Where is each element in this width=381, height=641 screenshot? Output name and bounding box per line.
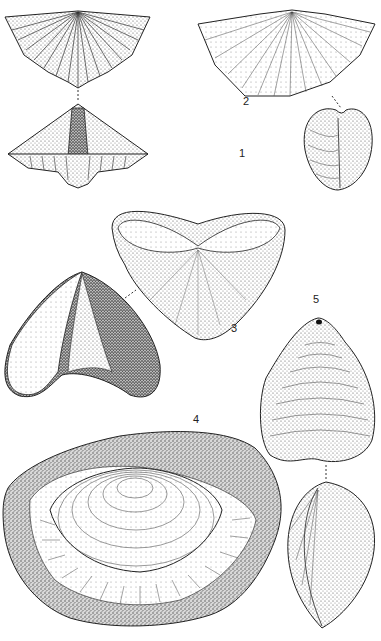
figure-label-1: 1 — [239, 148, 245, 159]
figure-5-dorsal — [260, 318, 374, 480]
figure-2-dorsal — [198, 10, 375, 108]
figure-4-specimen — [3, 432, 281, 626]
figure-label-5: 5 — [313, 294, 319, 305]
figure-3-oblique — [5, 272, 160, 397]
figure-5-lateral — [288, 482, 375, 628]
figure-1-posterior — [8, 104, 148, 188]
figure-label-2: 2 — [243, 96, 249, 107]
figure-2-lateral — [304, 109, 372, 190]
figure-1-dorsal — [5, 11, 150, 102]
figure-label-3: 3 — [231, 323, 237, 334]
foramen — [316, 320, 322, 325]
fossil-plate: 1 2 3 4 5 — [0, 0, 381, 641]
figure-label-4: 4 — [193, 414, 199, 425]
plate-illustration — [0, 0, 381, 641]
connector-line-fig3 — [125, 290, 136, 298]
connector-line-fig2 — [332, 96, 341, 108]
